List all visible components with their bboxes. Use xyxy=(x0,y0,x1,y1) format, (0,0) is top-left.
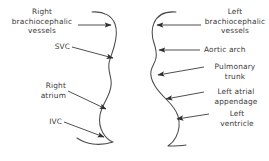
label-left-atrial-appendage: Left atrial appendage xyxy=(206,87,266,106)
label-left-ventricle: Left ventricle xyxy=(212,109,262,128)
right-heart-border-contour xyxy=(77,12,117,144)
label-ivc: IVC xyxy=(22,117,62,127)
arrow-ivc xyxy=(64,122,104,137)
label-aortic-arch: Aortic arch xyxy=(204,45,268,55)
arrow-left-atrial-appendage xyxy=(166,92,204,99)
arrow-left-ventricle xyxy=(177,114,209,119)
arrow-pulmonary-trunk xyxy=(158,67,204,75)
left-heart-border-contour xyxy=(151,12,186,146)
label-pulmonary-trunk: Pulmonary trunk xyxy=(206,62,264,81)
arrow-svc xyxy=(72,47,113,58)
label-right-brachiocephalic-vessels: Right brachiocephalic vessels xyxy=(6,7,78,36)
label-right-atrium: Right atrium xyxy=(14,81,66,100)
label-left-brachiocephalic-vessels: Left brachiocephalic vessels xyxy=(203,7,267,36)
anatomy-diagram: Right brachiocephalic vessels SVC Right … xyxy=(0,0,269,161)
arrow-right-atrium xyxy=(68,91,106,109)
label-svc: SVC xyxy=(28,42,70,52)
